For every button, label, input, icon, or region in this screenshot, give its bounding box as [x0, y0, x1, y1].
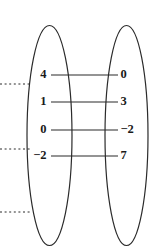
domain-oval: [27, 26, 72, 246]
range-value-1: 0: [121, 67, 127, 81]
crop-mark-group: [0, 84, 30, 212]
domain-value-3: 0: [40, 122, 46, 136]
range-value-4: 7: [121, 148, 127, 162]
domain-value-4: −2: [33, 148, 46, 162]
range-value-2: 3: [121, 94, 127, 108]
mapping-pairs: 40130−2−27: [33, 67, 134, 162]
domain-value-1: 4: [40, 67, 47, 81]
range-value-3: −2: [121, 122, 134, 136]
diagram-canvas: 40130−2−27: [0, 0, 160, 251]
mapping-diagram: 40130−2−27: [0, 0, 160, 251]
domain-value-2: 1: [40, 94, 46, 108]
